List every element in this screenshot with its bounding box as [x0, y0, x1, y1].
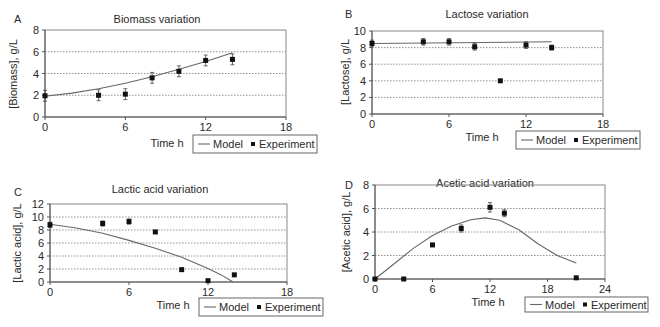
y-tick-label: 6: [360, 58, 366, 70]
experiment-marker: [549, 45, 554, 50]
experiment-marker: [373, 277, 378, 282]
chart-title: Lactose variation: [445, 8, 528, 20]
x-axis-label: Time h: [465, 131, 498, 143]
y-axis-label: [Biomass], g/L: [7, 39, 19, 109]
x-tick-label: 18: [281, 286, 293, 298]
x-axis-label: Time h: [471, 296, 504, 308]
chart-panel-d: DAcetic acid variation0246806121824Time …: [340, 177, 648, 312]
legend: ModelExperiment: [193, 135, 317, 153]
legend-model-label: Model: [219, 301, 249, 313]
experiment-marker: [472, 44, 477, 49]
legend-marker-icon: [251, 142, 255, 146]
x-tick-label: 12: [484, 283, 496, 295]
x-tick-label: 12: [202, 286, 214, 298]
y-tick-label: 0: [38, 276, 44, 288]
y-tick-label: 2: [360, 91, 366, 103]
y-tick-label: 12: [32, 198, 44, 210]
legend-model-label: Model: [213, 138, 243, 150]
x-tick-label: 6: [126, 286, 132, 298]
y-tick-label: 0: [33, 111, 39, 123]
experiment-marker: [96, 93, 101, 98]
experiment-marker: [203, 58, 208, 63]
legend: ModelExperiment: [525, 297, 648, 312]
x-tick-label: 12: [200, 121, 212, 133]
y-axis-label: [Acetic acid], g/L: [340, 192, 352, 273]
x-tick-label: 18: [541, 283, 553, 295]
y-tick-label: 4: [360, 75, 366, 87]
legend: ModelExperiment: [516, 131, 640, 149]
y-tick-label: 8: [363, 179, 369, 191]
legend-experiment-label: Experiment: [259, 138, 315, 150]
experiment-marker: [488, 205, 493, 210]
x-tick-label: 18: [597, 118, 609, 130]
experiment-marker: [43, 93, 48, 98]
experiment-marker: [447, 39, 452, 44]
legend-marker-icon: [583, 303, 587, 307]
x-axis-label: Time h: [156, 299, 189, 311]
figure-container: ABiomass variation02468061218Time h[Biom…: [0, 0, 660, 327]
y-tick-label: 2: [33, 89, 39, 101]
experiment-marker: [232, 272, 237, 277]
x-tick-label: 6: [122, 121, 128, 133]
experiment-marker: [401, 277, 406, 282]
y-tick-label: 8: [38, 224, 44, 236]
legend-experiment-label: Experiment: [265, 301, 321, 313]
experiment-marker: [127, 219, 132, 224]
chart-title: Biomass variation: [114, 13, 201, 25]
x-tick-label: 6: [446, 118, 452, 130]
panel-label: B: [345, 8, 352, 20]
y-tick-label: 8: [33, 24, 39, 36]
model-line: [375, 218, 576, 279]
experiment-marker: [48, 222, 53, 227]
experiment-marker: [430, 242, 435, 247]
chart-figure: ABiomass variation02468061218Time h[Biom…: [0, 0, 660, 327]
chart-panel-a: ABiomass variation02468061218Time h[Biom…: [7, 13, 317, 153]
x-tick-label: 6: [429, 283, 435, 295]
experiment-marker: [370, 41, 375, 46]
legend-marker-icon: [574, 138, 578, 142]
y-axis-label: [Lactic acid], g/L: [11, 203, 23, 283]
x-tick-label: 0: [369, 118, 375, 130]
y-tick-label: 8: [360, 42, 366, 54]
y-tick-label: 6: [363, 203, 369, 215]
y-axis-label: [Lactose], g/L: [339, 39, 351, 105]
experiment-marker: [179, 267, 184, 272]
chart-panel-b: BLactose variation0246810061218Time h[La…: [339, 8, 640, 149]
experiment-marker: [100, 221, 105, 226]
y-tick-label: 6: [33, 46, 39, 58]
y-tick-label: 0: [363, 273, 369, 285]
x-tick-label: 0: [372, 283, 378, 295]
y-tick-label: 0: [360, 108, 366, 120]
model-line: [50, 224, 233, 282]
y-tick-label: 4: [363, 226, 369, 238]
y-tick-label: 6: [38, 237, 44, 249]
chart-title: Acetic acid variation: [436, 177, 534, 189]
experiment-marker: [524, 43, 529, 48]
legend-model-label: Model: [536, 134, 566, 146]
experiment-marker: [498, 78, 503, 83]
experiment-marker: [502, 211, 507, 216]
experiment-marker: [176, 69, 181, 74]
y-tick-label: 2: [363, 250, 369, 262]
panel-label: A: [14, 13, 22, 25]
x-tick-label: 0: [47, 286, 53, 298]
panel-label: C: [14, 186, 22, 198]
x-axis-label: Time h: [150, 137, 183, 149]
legend-model-label: Model: [545, 299, 575, 311]
x-tick-label: 18: [280, 121, 292, 133]
experiment-marker: [153, 229, 158, 234]
x-tick-label: 24: [599, 283, 611, 295]
experiment-marker: [421, 39, 426, 44]
y-tick-label: 10: [32, 211, 44, 223]
x-tick-label: 0: [42, 121, 48, 133]
legend: ModelExperiment: [199, 298, 323, 316]
chart-title: Lactic acid variation: [112, 183, 209, 195]
experiment-marker: [574, 275, 579, 280]
x-tick-label: 12: [520, 118, 532, 130]
experiment-marker: [123, 92, 128, 97]
experiment-marker: [230, 57, 235, 62]
y-tick-label: 2: [38, 263, 44, 275]
y-tick-label: 4: [38, 250, 44, 262]
experiment-marker: [206, 278, 211, 283]
chart-panel-c: CLactic acid variation024681012061218Tim…: [11, 183, 323, 316]
